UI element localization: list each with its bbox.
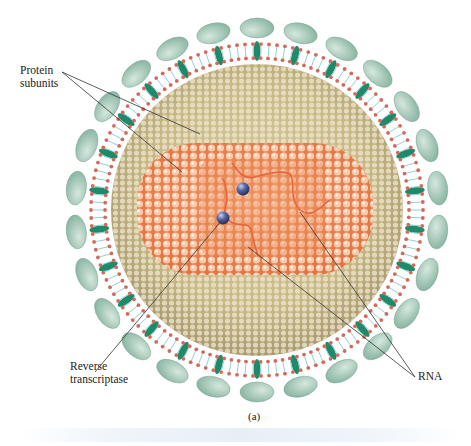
lipid-head [201,66,205,70]
lipid-head [132,119,136,123]
spike-glycoprotein [153,354,192,388]
lipid-head [251,56,255,60]
spike-glycoprotein [322,354,361,388]
lipid-tail [283,48,285,58]
lipid-head [103,208,107,212]
lipid-head [374,113,378,117]
lipid-head [146,314,150,318]
lipid-head [189,360,193,364]
lipid-head [309,350,313,354]
lipid-head [378,297,382,301]
spike-glycoprotein [412,126,443,165]
lipid-tail [229,48,231,58]
lipid-head [401,252,405,256]
lipid-tail [129,107,137,113]
lipid-tail [372,101,379,108]
lipid-tail [199,354,203,363]
lipid-head [414,256,418,260]
lipid-head [112,259,116,263]
lipid-tail [245,364,246,374]
lipid-head [194,347,198,351]
spike-glycoprotein [412,255,443,294]
lipid-head [390,279,394,283]
lipid-head [421,208,425,212]
lipid-head [404,179,408,183]
lipid-tail [140,318,147,325]
lipid-head [267,43,271,47]
lipid-head [237,57,241,61]
lipid-head [196,53,200,57]
lipid-head [259,56,263,60]
label-reverse-transcriptase-line1: Reverse [70,360,128,373]
lipid-head [322,344,326,348]
lipid-head [126,312,130,316]
lipid-head [291,46,295,50]
spike-glycoprotein [153,32,192,66]
lipid-head [169,83,173,87]
spike-glycoprotein [240,18,274,38]
lipid-head [235,43,239,47]
lipid-head [208,353,212,357]
lipid-head [390,137,394,141]
lipid-head [374,324,378,328]
lipid-tail [407,247,417,249]
lipid-head [121,279,125,283]
lipid-head [251,360,255,364]
lipid-head [299,48,303,52]
lipid-head [175,337,179,341]
lipid-head [306,366,310,370]
lipid-head [112,158,116,162]
lipid-tail [390,127,399,132]
lipid-tail [338,341,343,349]
lipid-head [368,330,372,334]
lipid-head [356,340,360,344]
lipid-head [237,359,241,363]
lipid-head [131,98,135,102]
lipid-head [382,125,386,129]
lipid-tail [338,71,343,79]
lipid-tail [170,71,175,79]
lipid-head [148,335,152,339]
lipid-tail [408,240,418,242]
lipid-tail [305,54,308,64]
label-rna: RNA [418,370,442,383]
lipid-head [362,81,366,85]
lipid-head [152,319,156,323]
lipid-head [266,56,270,60]
lipid-head [288,357,292,361]
lipid-head [148,81,152,85]
lipid-head [329,357,333,361]
lipid-head [108,285,112,289]
lipid-head [283,372,287,376]
lipid-head [393,144,397,148]
lipid-head [108,244,112,248]
lipid-head [251,42,255,46]
reverse-transcriptase-molecule [217,212,230,225]
lipid-head [295,355,299,359]
lipid-head [201,350,205,354]
lipid-tail [397,275,406,279]
lipid-head [152,97,156,101]
lipid-head [407,201,411,205]
lipid-head [243,43,247,47]
lipid-tail [367,318,374,325]
lipid-tail [283,362,285,372]
lipid-head [114,265,118,269]
lipid-head [364,102,368,106]
lipid-tail [140,95,147,102]
lipid-head [259,374,263,378]
lipid-head [116,299,120,303]
lipid-head [204,366,208,370]
lipid-head [379,98,383,102]
lipid-head [389,111,393,115]
lipid-head [394,117,398,121]
lipid-head [321,360,325,364]
lipid-head [421,200,425,204]
lipid-head [244,360,248,364]
lipid-head [394,299,398,303]
spike-glycoprotein [195,20,233,48]
lipid-head [386,285,390,289]
lipid-head [321,56,325,60]
lipid-head [314,53,318,57]
spike-glycoprotein [195,373,233,401]
